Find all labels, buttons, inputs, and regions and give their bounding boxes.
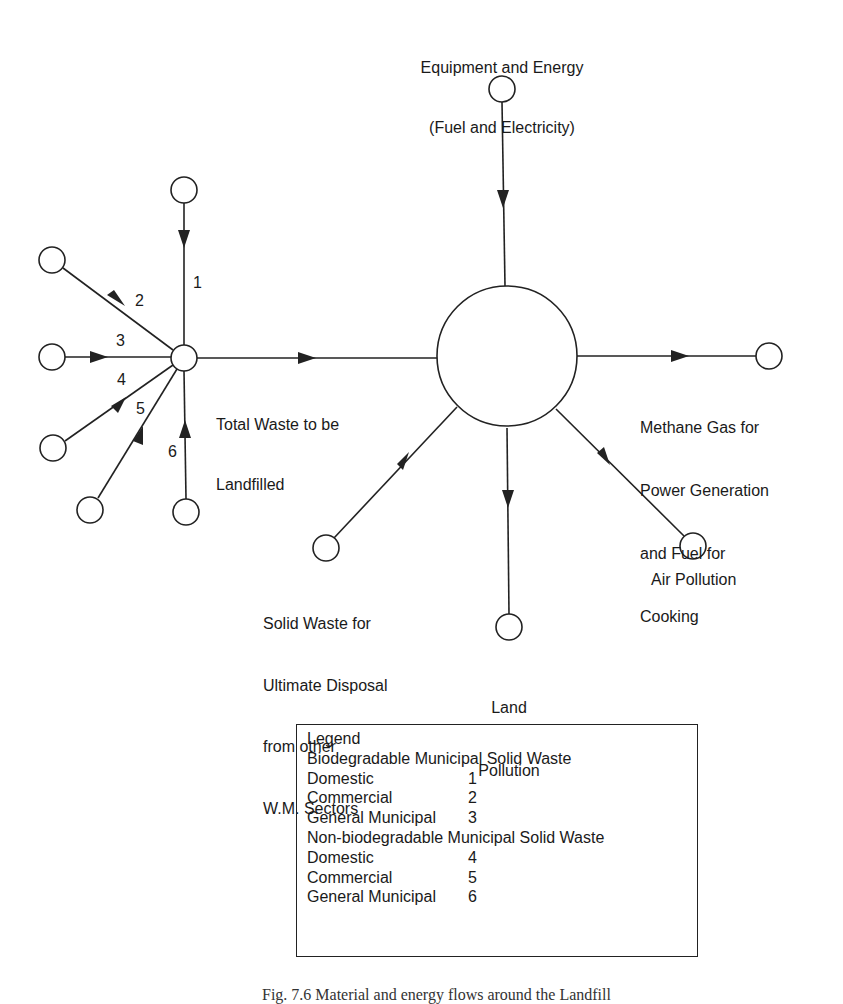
legend-item: General Municipal6 <box>307 887 697 907</box>
label-methane: Methane Gas for Power Generation and Fue… <box>640 375 769 648</box>
legend-title: Legend <box>307 729 697 749</box>
label-hub: Total Waste to be Landfilled <box>216 375 339 515</box>
legend-item: General Municipal3 <box>307 808 697 828</box>
node-input-4 <box>40 435 66 461</box>
edge-hub-to-landfill <box>197 352 437 364</box>
node-input-2 <box>39 247 65 273</box>
legend-item: Commercial2 <box>307 788 697 808</box>
node-hub <box>171 345 197 371</box>
stream-label-6: 6 <box>168 443 177 461</box>
node-input-1 <box>171 177 197 203</box>
node-methane <box>756 343 782 369</box>
node-solid-waste <box>313 535 339 561</box>
node-input-5 <box>77 497 103 523</box>
figure-caption: Fig. 7.6 Material and energy flows aroun… <box>262 986 611 1004</box>
node-input-6 <box>173 499 199 525</box>
stream-label-3: 3 <box>116 332 125 350</box>
node-land-pollution <box>496 614 522 640</box>
edge-landfill-to-methane <box>577 350 756 362</box>
node-landfill <box>437 286 577 426</box>
edge-landfill-to-land <box>502 428 514 614</box>
stream-label-2: 2 <box>135 292 144 310</box>
edge-landfill-to-solid-waste <box>334 407 457 538</box>
edge-5 <box>98 369 177 498</box>
legend-group-heading: Non-biodegradable Municipal Solid Waste <box>307 828 697 848</box>
edge-1 <box>178 203 190 345</box>
edge-6 <box>179 371 191 499</box>
legend-item: Domestic4 <box>307 848 697 868</box>
label-air-pollution: Air Pollution <box>651 570 736 590</box>
stream-label-1: 1 <box>193 274 202 292</box>
legend-group-heading: Biodegradable Municipal Solid Waste <box>307 749 697 769</box>
stream-label-4: 4 <box>117 371 126 389</box>
legend-box: Legend Biodegradable Municipal Solid Was… <box>296 724 698 957</box>
stream-label-5: 5 <box>136 400 145 418</box>
edge-3 <box>65 351 171 363</box>
legend-item: Domestic1 <box>307 769 697 789</box>
node-input-3 <box>39 344 65 370</box>
legend-item: Commercial5 <box>307 868 697 888</box>
label-energy-input: Equipment and Energy (Fuel and Electrici… <box>392 18 612 158</box>
